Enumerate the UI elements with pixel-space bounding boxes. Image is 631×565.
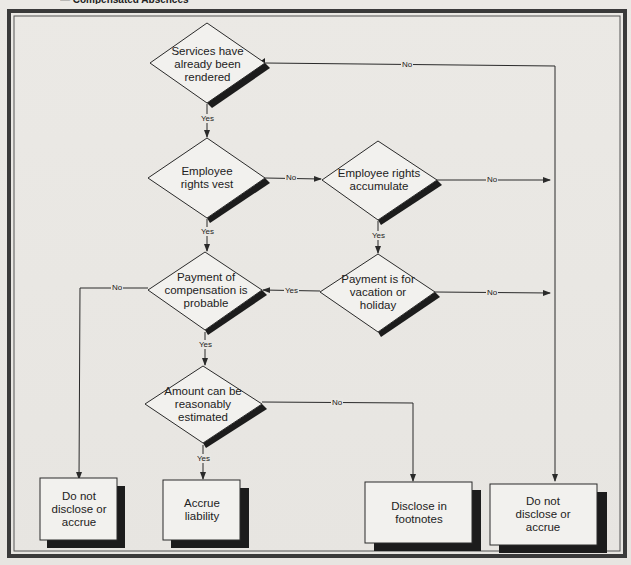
edge-label-vacation-no: No — [486, 288, 498, 297]
edge-label-estimated-yes: Yes — [196, 454, 211, 463]
decision-label-rights-accumulate: Employee rights accumulate — [335, 161, 423, 199]
connectors — [79, 63, 555, 481]
flowchart-canvas — [0, 0, 631, 565]
edge-label-compensation-no: No — [111, 283, 123, 292]
edge-label-estimated-no: No — [331, 398, 343, 407]
edge-label-compensation-yes: Yes — [198, 340, 213, 349]
outcome-label-accrue-liability: Accrue liability — [170, 484, 234, 536]
edge-label-accumulate-no: No — [486, 175, 498, 184]
decision-label-services-rendered: Services have already been rendered — [160, 45, 255, 83]
edge-label-services-no: No — [401, 60, 413, 69]
edge-label-accumulate-yes: Yes — [371, 231, 386, 240]
edge-label-vest-no: No — [285, 173, 297, 182]
decision-label-compensation-probable: Payment of compensation is probable — [160, 271, 252, 309]
edge-label-services-yes: Yes — [200, 114, 215, 123]
edge-label-vest-yes: Yes — [200, 227, 215, 236]
outcome-label-do-not-disclose-right: Do not disclose or accrue — [507, 487, 579, 542]
decision-label-reasonably-estimated: Amount can be reasonably estimated — [156, 385, 250, 423]
edge-label-vacation-yes: Yes — [284, 286, 299, 295]
outcome-label-do-not-disclose-left: Do not disclose or accrue — [44, 482, 114, 536]
decision-label-rights-vest: Employee rights vest — [170, 159, 244, 197]
decision-label-vacation-holiday: Payment is for vacation or holiday — [333, 273, 423, 311]
figure-frame — [9, 11, 625, 556]
outcome-label-disclose-footnotes: Disclose in footnotes — [372, 486, 466, 539]
